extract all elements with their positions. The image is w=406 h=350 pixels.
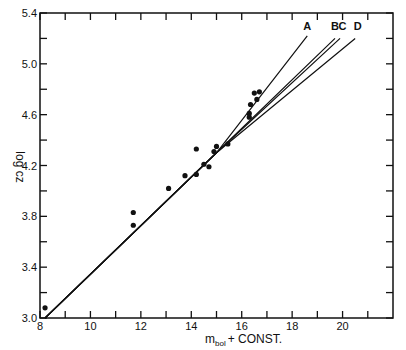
data-point [201, 162, 206, 167]
data-point [214, 144, 219, 149]
curve-d [45, 38, 355, 318]
x-tick-label: 8 [37, 320, 43, 332]
data-point [247, 111, 252, 116]
curve-label-d: D [354, 20, 362, 32]
data-point [182, 173, 187, 178]
y-tick-label: 3.8 [22, 210, 37, 222]
data-point [166, 186, 171, 191]
curve-a [45, 36, 307, 318]
hubble-diagram-chart: 8101214161820 3.03.43.84.24.65.05.4 ABCD… [0, 0, 406, 350]
curve-label-c: C [339, 20, 347, 32]
x-axis-title: mbol+ CONST. [205, 332, 282, 348]
data-point [42, 305, 47, 310]
x-tick-label: 18 [286, 320, 298, 332]
x-axis-tick-labels: 8101214161820 [37, 320, 349, 332]
data-point [131, 223, 136, 228]
y-tick-label: 3.4 [22, 261, 37, 273]
curve-label-a: A [303, 20, 311, 32]
curve-labels: ABCD [303, 20, 361, 32]
data-point [206, 164, 211, 169]
y-tick-label: 5.4 [22, 7, 37, 19]
model-curves [45, 36, 355, 318]
y-tick-label: 5.0 [22, 58, 37, 70]
data-point [257, 89, 262, 94]
data-points [42, 89, 262, 310]
data-point [225, 141, 230, 146]
x-tick-label: 10 [84, 320, 96, 332]
y-tick-label: 4.6 [22, 109, 37, 121]
data-point [252, 90, 257, 95]
data-point [194, 172, 199, 177]
x-tick-label: 12 [135, 320, 147, 332]
x-tick-label: 16 [236, 320, 248, 332]
data-point [194, 146, 199, 151]
data-point [131, 210, 136, 215]
y-tick-label: 3.0 [22, 312, 37, 324]
data-point [248, 102, 253, 107]
y-axis-title: log cz [13, 151, 27, 182]
data-point [211, 149, 216, 154]
x-tick-label: 20 [336, 320, 348, 332]
data-point [254, 97, 259, 102]
x-tick-label: 14 [185, 320, 197, 332]
